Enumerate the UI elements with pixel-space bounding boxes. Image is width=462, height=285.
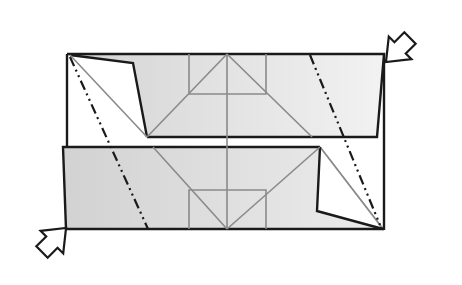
origami-diagram xyxy=(0,0,462,285)
diagram-canvas xyxy=(0,0,462,285)
